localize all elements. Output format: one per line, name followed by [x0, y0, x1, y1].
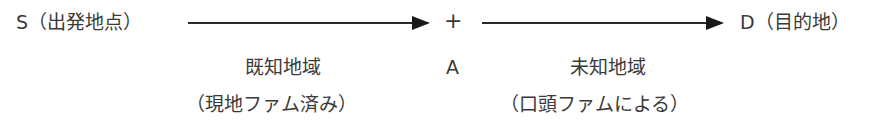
midpoint-label: A [446, 55, 459, 79]
unknown-region-note: （口頭ファムによる） [500, 92, 689, 116]
arrow-a-to-end [482, 22, 722, 24]
arrow-start-to-a [188, 22, 428, 24]
unknown-region-label: 未知地域 [570, 55, 646, 79]
known-region-label: 既知地域 [245, 55, 321, 79]
start-point-label: S（出発地点） [16, 10, 142, 34]
known-region-note: （現地ファム済み） [186, 92, 357, 116]
midpoint-marker: + [444, 9, 462, 33]
end-point-label: D（目的地） [740, 10, 850, 34]
